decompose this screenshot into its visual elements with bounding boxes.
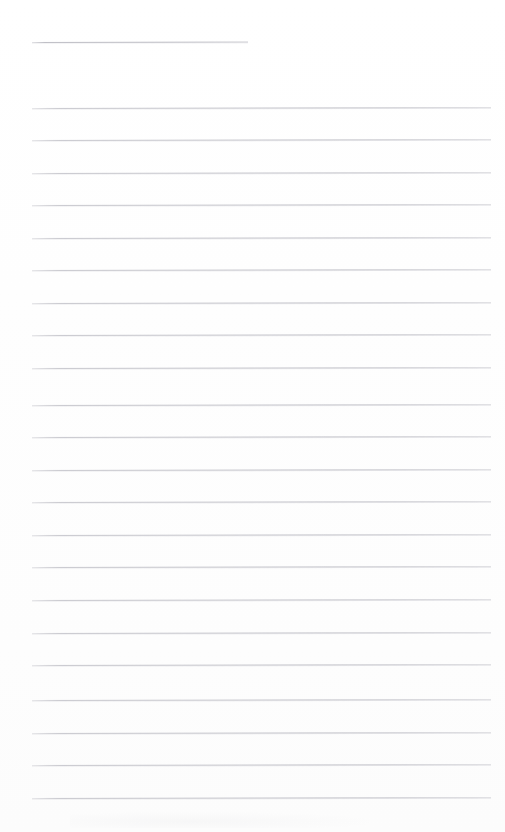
body-rule-9 bbox=[32, 367, 491, 369]
body-rule-19 bbox=[32, 699, 491, 701]
body-rule-16 bbox=[32, 599, 491, 601]
body-rule-22 bbox=[32, 797, 491, 799]
body-rule-18 bbox=[32, 664, 491, 666]
body-rule-8 bbox=[32, 334, 491, 336]
body-rule-21 bbox=[32, 764, 491, 766]
body-rule-11 bbox=[32, 436, 491, 438]
title-rule bbox=[32, 42, 248, 43]
body-rule-3 bbox=[32, 172, 491, 174]
body-rule-20 bbox=[32, 732, 491, 734]
body-rule-1 bbox=[32, 107, 491, 109]
body-rule-14 bbox=[32, 534, 491, 536]
body-rule-6 bbox=[32, 269, 491, 271]
body-rule-2 bbox=[32, 139, 491, 141]
body-rule-10 bbox=[32, 404, 491, 406]
body-rule-7 bbox=[32, 302, 491, 304]
body-rule-4 bbox=[32, 204, 491, 206]
body-rule-13 bbox=[32, 501, 491, 503]
body-rule-5 bbox=[32, 237, 491, 239]
body-rule-12 bbox=[32, 469, 491, 471]
body-rule-17 bbox=[32, 632, 491, 634]
ruled-lines-layer bbox=[0, 0, 505, 832]
scanned-page bbox=[0, 0, 505, 832]
body-rule-15 bbox=[32, 566, 491, 568]
